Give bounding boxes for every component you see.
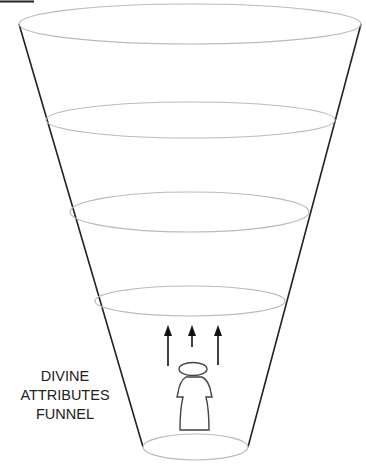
- person-figure-icon: [177, 363, 212, 431]
- arrow-up-icon: [188, 325, 196, 347]
- title-line-2: ATTRIBUTES: [0, 386, 130, 405]
- figure-body: [177, 377, 212, 430]
- funnel-tier-3: [70, 192, 309, 232]
- title-line-3: FUNNEL: [0, 405, 130, 424]
- funnel-right-side: [248, 24, 361, 447]
- funnel-tier-2: [46, 102, 335, 138]
- funnel-tier-4: [95, 286, 285, 316]
- funnel-tier-1: [19, 4, 361, 44]
- funnel-title: DIVINE ATTRIBUTES FUNNEL: [0, 367, 130, 424]
- figure-head: [179, 363, 207, 376]
- title-line-1: DIVINE: [0, 367, 130, 386]
- arrow-up-icon: [164, 325, 172, 366]
- funnel-tier-5: [143, 434, 248, 460]
- arrow-up-icon: [214, 325, 222, 365]
- upward-arrows: [164, 325, 222, 366]
